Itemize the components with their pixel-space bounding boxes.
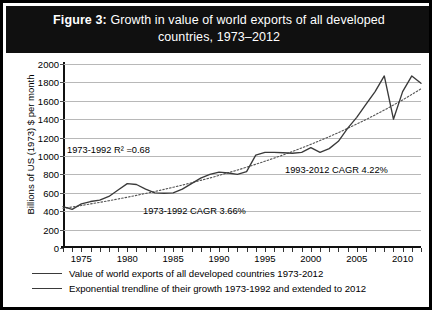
x-tick-label: 2005 [346, 253, 367, 264]
x-tick-mark [146, 248, 147, 252]
annotation-r2: 1973-1992 R² =0.68 [67, 145, 150, 155]
x-tick-mark [329, 248, 330, 252]
y-tick-label: 200 [43, 224, 59, 235]
x-tick-mark [375, 248, 376, 252]
x-tick-mark [173, 248, 174, 252]
x-tick-mark [109, 248, 110, 252]
series-exports-line [63, 76, 421, 209]
legend-swatch-exports-icon [32, 273, 62, 274]
x-tick-mark [127, 248, 128, 252]
series-layer [63, 64, 421, 248]
legend-label-exports: Value of world exports of all developed … [69, 268, 323, 279]
x-tick-mark [155, 248, 156, 252]
x-tick-mark [256, 248, 257, 252]
x-tick-mark [100, 248, 101, 252]
x-tick-mark [320, 248, 321, 252]
x-tick-mark [274, 248, 275, 252]
page-title: Figure 3: Growth in value of world expor… [28, 12, 410, 46]
legend-label-trendline: Exponential trendline of their growth 19… [69, 283, 366, 294]
x-tick-label: 2010 [392, 253, 413, 264]
x-tick-label: 2000 [300, 253, 321, 264]
x-tick-mark [403, 248, 404, 252]
figure-title-text: Growth in value of world exports of all … [110, 13, 385, 44]
y-tick-label: 1800 [38, 77, 59, 88]
x-tick-mark [192, 248, 193, 252]
x-tick-mark [164, 248, 165, 252]
y-tick-label: 1000 [38, 151, 59, 162]
y-tick-label: 1200 [38, 132, 59, 143]
x-tick-label: 1975 [71, 253, 92, 264]
legend-item-trendline: Exponential trendline of their growth 19… [32, 281, 428, 296]
y-tick-label: 2000 [38, 59, 59, 70]
x-tick-mark [338, 248, 339, 252]
x-tick-mark [210, 248, 211, 252]
x-tick-mark [366, 248, 367, 252]
chart-legend: Value of world exports of all developed … [32, 266, 428, 296]
x-tick-mark [393, 248, 394, 252]
y-tick-label: 0 [54, 243, 59, 254]
x-tick-mark [357, 248, 358, 252]
x-tick-mark [302, 248, 303, 252]
x-tick-mark [292, 248, 293, 252]
x-tick-mark [247, 248, 248, 252]
y-tick-label: 800 [43, 169, 59, 180]
y-tick-label: 1600 [38, 95, 59, 106]
x-tick-mark [265, 248, 266, 252]
x-tick-mark [237, 248, 238, 252]
x-tick-mark [228, 248, 229, 252]
figure-label: Figure 3: [53, 13, 107, 27]
x-tick-mark [412, 248, 413, 252]
y-tick-label: 400 [43, 206, 59, 217]
y-tick-label: 1400 [38, 114, 59, 125]
x-tick-mark [81, 248, 82, 252]
x-tick-mark [63, 248, 64, 252]
legend-item-exports: Value of world exports of all developed … [32, 266, 428, 281]
x-tick-mark [348, 248, 349, 252]
x-tick-mark [384, 248, 385, 252]
x-tick-label: 1990 [208, 253, 229, 264]
x-tick-mark [91, 248, 92, 252]
chart-card: Billions of US (1973) $ per month 020040… [6, 53, 432, 310]
x-tick-label: 1995 [254, 253, 275, 264]
figure-title-bar: Figure 3: Growth in value of world expor… [6, 6, 432, 53]
y-tick-label: 600 [43, 187, 59, 198]
y-axis-title: Billions of US (1973) $ per month [25, 55, 36, 235]
x-tick-mark [136, 248, 137, 252]
x-tick-label: 1985 [163, 253, 184, 264]
legend-swatch-trendline-icon [32, 288, 62, 289]
plot-area: 0200400600800100012001400160018002000 19… [63, 64, 421, 248]
annotation-cagr-late: 1993-2012 CAGR 4.22% [285, 165, 388, 175]
x-tick-label: 1980 [117, 253, 138, 264]
x-tick-mark [201, 248, 202, 252]
x-tick-mark [283, 248, 284, 252]
x-tick-mark [219, 248, 220, 252]
annotation-cagr-early: 1973-1992 CAGR 3.66% [143, 206, 246, 216]
x-tick-mark [182, 248, 183, 252]
x-tick-mark [118, 248, 119, 252]
x-tick-mark [421, 248, 422, 252]
x-tick-mark [311, 248, 312, 252]
figure-container: Figure 3: Growth in value of world expor… [0, 0, 432, 310]
x-tick-mark [72, 248, 73, 252]
